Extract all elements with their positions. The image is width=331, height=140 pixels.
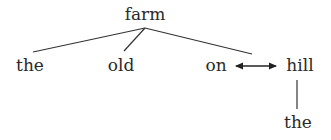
node-old: old bbox=[108, 55, 135, 75]
edge-farm-on bbox=[145, 28, 252, 54]
node-farm: farm bbox=[125, 4, 166, 24]
dependency-tree-diagram: farm the old on hill the bbox=[0, 0, 331, 140]
node-the: the bbox=[16, 55, 44, 75]
edge-farm-the bbox=[33, 28, 145, 52]
node-hill: hill bbox=[286, 55, 313, 75]
node-the-child: the bbox=[284, 112, 312, 132]
node-on: on bbox=[205, 55, 226, 75]
